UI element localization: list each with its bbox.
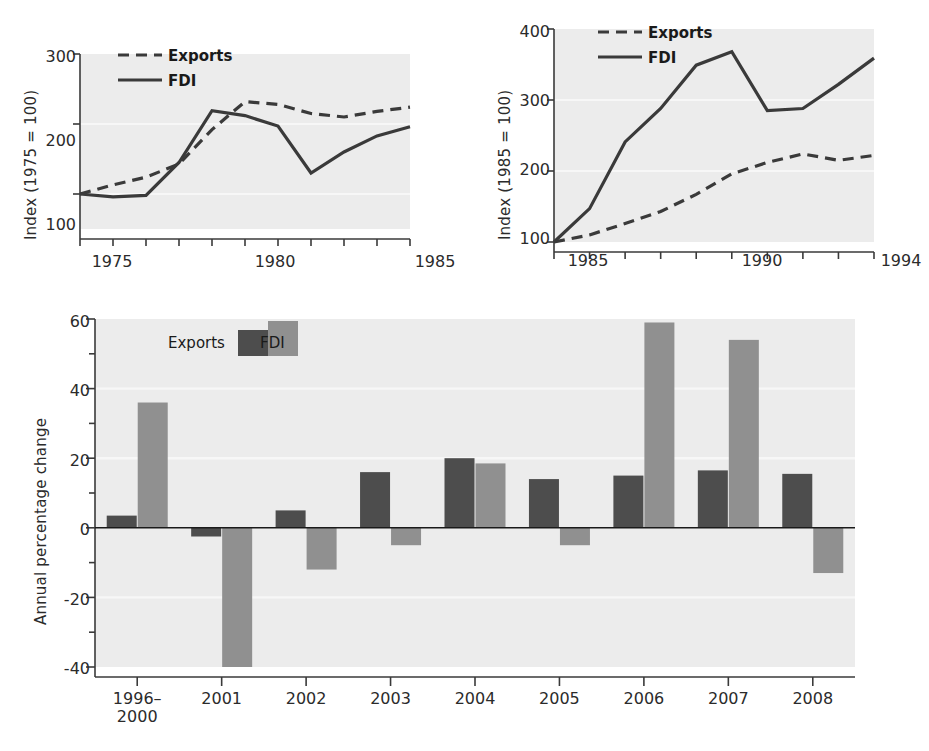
chart3-xtick-3-line1: 2003 xyxy=(346,690,436,708)
bar-fdi-3 xyxy=(391,528,421,545)
chart3-legend-exports-label: Exports xyxy=(168,334,225,352)
chart3-xtick-4: 2004 xyxy=(430,690,520,708)
chart2-ytick-200: 200 xyxy=(506,160,550,179)
bar-fdi-8 xyxy=(813,528,843,573)
chart3-xtick-6-line1: 2006 xyxy=(599,690,689,708)
chart1-xtick-1980: 1980 xyxy=(245,252,305,271)
chart2-xtick-1990: 1990 xyxy=(732,251,792,270)
chart-panel-index-1985: Index (1985 = 100) 400 300 200 100 1985 … xyxy=(460,0,929,290)
chart2-xtick-1994: 1994 xyxy=(871,251,929,270)
bar-exports-7 xyxy=(698,470,728,527)
chart-panel-index-1975: Index (1975 = 100) 300 200 100 1975 1980… xyxy=(0,0,465,290)
chart3-xtick-8: 2008 xyxy=(768,690,858,708)
chart3-xtick-5-line1: 2005 xyxy=(514,690,604,708)
chart3-ytick-minus40: -40 xyxy=(44,659,90,678)
chart3-ytick-0: 0 xyxy=(52,520,90,539)
bar-exports-0 xyxy=(107,516,137,528)
bar-fdi-4 xyxy=(476,463,506,527)
chart3-xtick-2-line1: 2002 xyxy=(261,690,351,708)
chart3-xtick-4-line1: 2004 xyxy=(430,690,520,708)
chart1-ytick-100: 100 xyxy=(32,215,76,234)
chart1-xtick-1985: 1985 xyxy=(405,252,465,271)
chart1-legend-exports-label: Exports xyxy=(168,47,232,65)
chart3-plot-svg xyxy=(0,290,929,751)
chart1-xtick-1975: 1975 xyxy=(82,252,142,271)
chart1-ytick-200: 200 xyxy=(32,131,76,150)
chart2-xtick-1985: 1985 xyxy=(558,251,618,270)
bar-exports-5 xyxy=(529,479,559,528)
chart3-xtick-0-line2: 2000 xyxy=(92,708,182,726)
chart3-ytick-minus20: -20 xyxy=(44,590,90,609)
chart3-xtick-3: 2003 xyxy=(346,690,436,708)
chart2-legend-fdi-label: FDI xyxy=(648,49,676,67)
bar-fdi-7 xyxy=(729,340,759,528)
bar-fdi-6 xyxy=(644,322,674,527)
chart3-xtick-0: 1996–2000 xyxy=(92,690,182,727)
figure-three-panel-exports-fdi: Index (1975 = 100) 300 200 100 1975 1980… xyxy=(0,0,929,751)
chart3-xtick-5: 2005 xyxy=(514,690,604,708)
chart3-xtick-1: 2001 xyxy=(177,690,267,708)
chart2-ytick-100: 100 xyxy=(506,229,550,248)
chart3-legend-fdi-label: FDI xyxy=(260,334,285,352)
chart3-xtick-0-line1: 1996– xyxy=(92,690,182,708)
chart3-xtick-8-line1: 2008 xyxy=(768,690,858,708)
chart3-xtick-2: 2002 xyxy=(261,690,351,708)
bar-exports-2 xyxy=(276,510,306,527)
bar-fdi-2 xyxy=(307,528,337,570)
chart3-ytick-20: 20 xyxy=(52,451,90,470)
chart-panel-annual-pct-change: Annual percentage change 60 40 20 0 -20 … xyxy=(0,290,929,751)
plot-area-background xyxy=(554,29,874,242)
chart2-ytick-400: 400 xyxy=(506,22,550,41)
chart3-ytick-40: 40 xyxy=(52,381,90,400)
chart3-ytick-60: 60 xyxy=(52,312,90,331)
bar-exports-4 xyxy=(445,458,475,528)
bar-exports-6 xyxy=(613,476,643,528)
bar-exports-3 xyxy=(360,472,390,528)
chart3-xtick-7-line1: 2007 xyxy=(683,690,773,708)
bar-fdi-1 xyxy=(222,528,252,667)
chart2-ytick-300: 300 xyxy=(506,91,550,110)
chart1-ytick-300: 300 xyxy=(32,47,76,66)
chart2-legend-exports-label: Exports xyxy=(648,24,712,42)
chart3-xtick-1-line1: 2001 xyxy=(177,690,267,708)
bar-exports-1 xyxy=(191,528,221,537)
bar-exports-8 xyxy=(782,474,812,528)
chart3-xtick-7: 2007 xyxy=(683,690,773,708)
bar-fdi-0 xyxy=(138,403,168,528)
chart1-legend-fdi-label: FDI xyxy=(168,72,196,90)
bar-fdi-5 xyxy=(560,528,590,545)
chart3-xtick-6: 2006 xyxy=(599,690,689,708)
